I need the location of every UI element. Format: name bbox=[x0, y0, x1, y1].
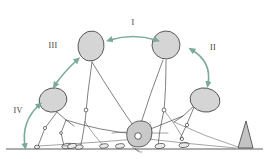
biomechanics-figure: I II III IV bbox=[0, 0, 269, 159]
foot-shape bbox=[34, 145, 39, 149]
joint-marker bbox=[162, 108, 166, 112]
label-phase-3: III bbox=[49, 41, 58, 50]
head-left bbox=[37, 85, 70, 115]
ground-feet-group bbox=[99, 143, 124, 149]
arrow-phase-3-icon bbox=[55, 60, 77, 85]
label-phase-4: IV bbox=[13, 106, 22, 115]
arrow-phase-4-icon bbox=[24, 105, 39, 146]
head-right bbox=[188, 86, 222, 115]
joint-marker bbox=[84, 108, 88, 112]
arrow-phase-1-icon bbox=[110, 37, 156, 41]
label-phase-2: II bbox=[210, 43, 216, 52]
joint-marker bbox=[43, 126, 46, 129]
figure-canvas: I II III IV bbox=[0, 0, 269, 159]
wedge-shape bbox=[238, 121, 253, 148]
foot-shape bbox=[155, 143, 165, 149]
joint-marker bbox=[185, 123, 188, 126]
head-upper-left bbox=[76, 29, 106, 62]
arrow-phase-2-icon bbox=[192, 50, 209, 84]
joint-marker bbox=[60, 132, 63, 135]
figure-right-extended bbox=[148, 105, 238, 148]
foot-shape bbox=[99, 143, 108, 148]
label-phase-1: I bbox=[132, 18, 135, 27]
hub-axle bbox=[135, 133, 142, 140]
support-wedge bbox=[238, 121, 253, 148]
head-upper-right bbox=[151, 30, 181, 60]
foot-shape bbox=[115, 143, 125, 149]
